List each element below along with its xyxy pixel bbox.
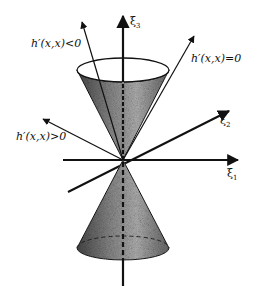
label-positive: h′(x,x)>0 <box>16 130 66 143</box>
label-negative: h′(x,x)<0 <box>31 37 81 50</box>
xi1-label: ξ1 <box>227 167 238 182</box>
label-zero: h′(x,x)=0 <box>191 52 241 65</box>
xi3-label: ξ3 <box>130 15 141 30</box>
xi2-label: ξ2 <box>220 114 231 129</box>
xi2-axis <box>68 111 229 192</box>
light-cone-diagram: ξ3 ξ2 ξ1 h′(x,x)<0 h′(x,x)=0 h′(x,x)>0 <box>0 0 258 298</box>
